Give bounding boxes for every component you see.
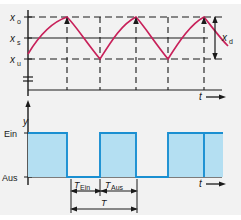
label-xs: x: [9, 33, 16, 44]
pulse-block-3: [204, 133, 223, 177]
figure-canvas: x o x s x u x d t y Ein Aus T Ein T Aus …: [0, 0, 241, 220]
label-xo-sub: o: [17, 18, 21, 25]
top-white-strip: [0, 0, 241, 4]
label-xs-sub: s: [17, 39, 21, 46]
pulse-block-1: [100, 133, 136, 177]
label-xd: x: [221, 32, 228, 43]
hysteresis-control-figure: x o x s x u x d t y Ein Aus T Ein T Aus …: [0, 0, 241, 220]
bottom-white-strip: [0, 215, 241, 220]
label-t-aus-sub: Aus: [111, 184, 124, 191]
label-ein: Ein: [4, 129, 17, 139]
label-aus: Aus: [2, 173, 18, 183]
label-xu-sub: u: [17, 60, 21, 67]
label-xo: x: [9, 12, 16, 23]
pulse-block-2: [168, 133, 204, 177]
label-xd-sub: d: [229, 38, 233, 45]
label-t-ein-sub: Ein: [80, 184, 90, 191]
pulse-block-0: [28, 133, 67, 177]
label-y: y: [22, 116, 29, 127]
switching-signal-fill: [28, 133, 223, 177]
label-xu: x: [9, 54, 16, 65]
